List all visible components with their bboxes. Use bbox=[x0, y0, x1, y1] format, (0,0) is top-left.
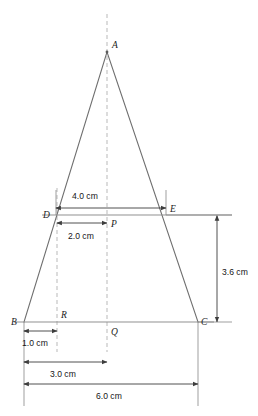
dashed-axes-group bbox=[57, 14, 107, 352]
point-label-P: P bbox=[110, 219, 117, 229]
point-labels-group: A B C D E P Q R bbox=[11, 40, 208, 337]
dim-label-de-to-bc-height: 3.6 cm bbox=[222, 267, 248, 277]
geometry-diagram-root: 4.0 cm 2.0 cm 1.0 cm 3.0 cm 6.0 cm 3.6 c… bbox=[0, 0, 258, 416]
vertex-dot-A bbox=[106, 51, 109, 54]
vertex-markers-group bbox=[106, 51, 109, 54]
geometry-figure: 4.0 cm 2.0 cm 1.0 cm 3.0 cm 6.0 cm 3.6 c… bbox=[0, 0, 258, 416]
dim-label-de-width: 4.0 cm bbox=[72, 191, 98, 201]
point-label-A: A bbox=[111, 40, 118, 50]
point-label-D: D bbox=[42, 210, 50, 220]
point-label-R: R bbox=[60, 310, 67, 320]
point-label-C: C bbox=[201, 317, 208, 327]
dim-label-bq-half-base: 3.0 cm bbox=[50, 369, 76, 379]
edge-AC bbox=[107, 52, 198, 322]
dim-label-bc-base: 6.0 cm bbox=[96, 391, 122, 401]
point-label-B: B bbox=[11, 317, 17, 327]
dimension-lines-group bbox=[24, 208, 217, 384]
edge-AB bbox=[24, 52, 107, 322]
dim-label-dp-half-width: 2.0 cm bbox=[68, 231, 94, 241]
dimension-labels-group: 4.0 cm 2.0 cm 1.0 cm 3.0 cm 6.0 cm 3.6 c… bbox=[22, 191, 248, 401]
point-label-Q: Q bbox=[111, 327, 118, 337]
point-label-E: E bbox=[169, 204, 176, 214]
triangle-edges-group bbox=[24, 52, 198, 322]
dim-label-br-offset: 1.0 cm bbox=[22, 338, 48, 348]
cross-segments-group bbox=[14, 215, 232, 322]
